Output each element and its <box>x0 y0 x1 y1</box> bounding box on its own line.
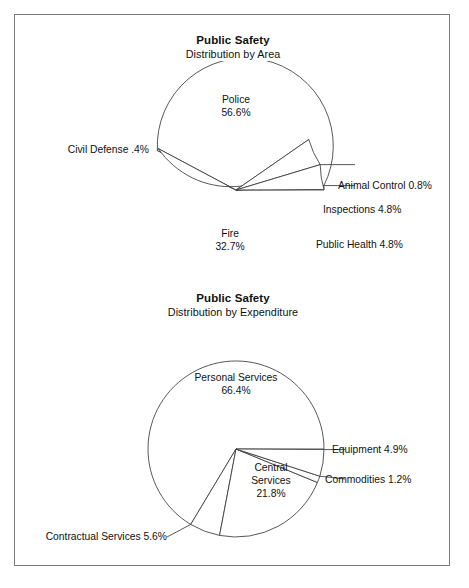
label-central-services-line2: Services <box>251 475 290 486</box>
label-central-services-pct: 21.8% <box>256 488 285 499</box>
chart-2-subtitle: Distribution by Expenditure <box>15 305 451 319</box>
label-personal-services-pct: 66.4% <box>221 385 250 396</box>
chart-1-subtitle: Distribution by Area <box>15 47 451 61</box>
chart-public-safety-by-expenditure: Public Safety Distribution by Expenditur… <box>15 273 451 564</box>
leader-line-contractual-services <box>167 524 191 537</box>
label-inspections: Inspections 4.8% <box>323 204 401 215</box>
label-contractual-services: Contractual Services 5.6% <box>46 531 167 542</box>
label-civil-defense: Civil Defense .4% <box>68 144 149 155</box>
label-personal-services-name: Personal Services <box>195 372 278 383</box>
chart-2-pie-svg: Personal Services 66.4% Central Services… <box>15 319 451 564</box>
label-public-health: Public Health 4.8% <box>316 239 403 250</box>
chart-1-pie-svg: Police 56.6% Fire 32.7% Animal Control 0… <box>15 61 451 291</box>
label-fire-pct: 32.7% <box>215 241 244 252</box>
chart-public-safety-by-area: Public Safety Distribution by Area Polic… <box>15 15 451 291</box>
label-police-pct: 56.6% <box>221 107 250 118</box>
page-border-frame: Public Safety Distribution by Area Polic… <box>14 14 450 566</box>
label-police-name: Police <box>222 94 250 105</box>
label-fire-name: Fire <box>221 228 239 239</box>
label-animal-control: Animal Control 0.8% <box>338 180 432 191</box>
chart-2-title-group: Public Safety Distribution by Expenditur… <box>15 273 451 319</box>
chart-1-title: Public Safety <box>15 33 451 47</box>
label-equipment: Equipment 4.9% <box>332 444 408 455</box>
chart-2-title: Public Safety <box>15 291 451 305</box>
label-central-services-line1: Central <box>254 462 287 473</box>
label-commodities: Commodities 1.2% <box>325 474 411 485</box>
chart-1-title-group: Public Safety Distribution by Area <box>15 15 451 61</box>
